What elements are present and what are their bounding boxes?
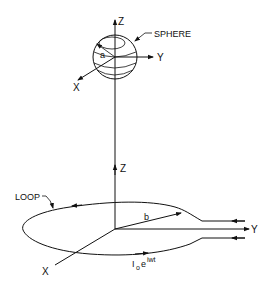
sphere-x-label: X bbox=[73, 82, 80, 93]
loop-label: LOOP bbox=[15, 192, 40, 202]
loop-leader bbox=[42, 196, 53, 208]
loop-radius-label: b bbox=[144, 212, 149, 222]
current-mid: e bbox=[141, 259, 146, 269]
loop-x-label: X bbox=[42, 266, 49, 277]
loop-x-axis bbox=[55, 229, 115, 265]
sphere-x-axis bbox=[78, 57, 115, 80]
sphere-radius-label: a bbox=[100, 50, 105, 60]
loop-y-label: Y bbox=[251, 224, 258, 235]
loop-z-label: Z bbox=[120, 163, 126, 174]
current-label: I o e iwt bbox=[132, 256, 156, 271]
sphere-leader bbox=[135, 33, 152, 41]
current-superscript: iwt bbox=[147, 256, 156, 263]
current-base: I bbox=[132, 259, 135, 269]
sphere-loop-diagram: a Y X Z SPHERE Z Y b bbox=[0, 0, 271, 289]
current-subscript: o bbox=[136, 264, 140, 271]
sphere-label: SPHERE bbox=[154, 29, 191, 39]
sphere-z-label: Z bbox=[118, 16, 124, 27]
sphere-y-label: Y bbox=[157, 52, 164, 63]
